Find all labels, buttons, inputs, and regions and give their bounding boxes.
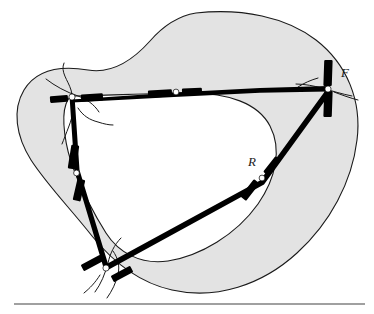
ribbon-top-mid-b [182, 88, 202, 96]
label-F: F [340, 65, 350, 80]
vertex-right-node [325, 86, 331, 92]
ribbon-F-vertex-a [323, 60, 332, 86]
whisker-left-c [78, 108, 113, 125]
midpoint-left-node [74, 170, 80, 176]
midpoint-right-node [259, 175, 265, 181]
ribbon-F-vertex-b [323, 91, 332, 117]
topological-diagram-canvas: F R [0, 0, 374, 314]
ribbon-left-vertex-a [50, 95, 68, 103]
vertex-left-node [69, 94, 75, 100]
shaded-region [17, 12, 358, 293]
ribbon-top-mid-a [148, 89, 172, 97]
ribbon-bottom-vertex-b [111, 266, 134, 283]
figure-container: F R [0, 0, 374, 314]
ribbon-left-vertex-b [81, 93, 103, 102]
label-R: R [247, 154, 256, 169]
whisker-bottom-c [84, 275, 100, 293]
vertex-bottom-node [103, 265, 109, 271]
midpoint-top-node [173, 89, 179, 95]
ribbon-bottom-vertex-a [81, 255, 104, 272]
